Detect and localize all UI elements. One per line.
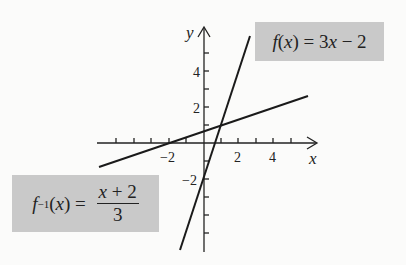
finv-denominator: 3 xyxy=(113,204,123,225)
y-tick-label-neg2: −2 xyxy=(182,173,197,188)
f-rhs-rest: − 2 xyxy=(337,31,367,53)
finv-num-rest: + 2 xyxy=(107,181,137,202)
y-tick-label-2: 2 xyxy=(193,101,200,116)
finv-numerator: x + 2 xyxy=(97,182,139,204)
finv-var: x xyxy=(56,193,64,215)
finv-fraction: x + 2 3 xyxy=(97,182,139,225)
y-tick-label-4: 4 xyxy=(193,65,200,80)
f-var: x xyxy=(284,31,292,53)
finv-equals: = xyxy=(70,193,90,215)
x-tick-label-2: 2 xyxy=(234,150,241,165)
y-axis-label: y xyxy=(184,23,194,42)
finv-superscript: −1 xyxy=(38,198,50,210)
x-tick-label-neg2: −2 xyxy=(160,150,175,165)
f-equation-label: f(x) = 3x − 2 xyxy=(255,22,384,61)
x-axis-label: x xyxy=(308,149,317,168)
x-tick-label-4: 4 xyxy=(269,150,276,165)
finv-num-var: x xyxy=(99,181,107,202)
x-axis xyxy=(97,137,317,149)
f-inverse-equation-label: f−1(x) = x + 2 3 xyxy=(12,175,159,232)
f-rhs-var: x xyxy=(328,31,336,53)
f-equals: = xyxy=(299,31,319,53)
y-axis xyxy=(198,27,210,252)
